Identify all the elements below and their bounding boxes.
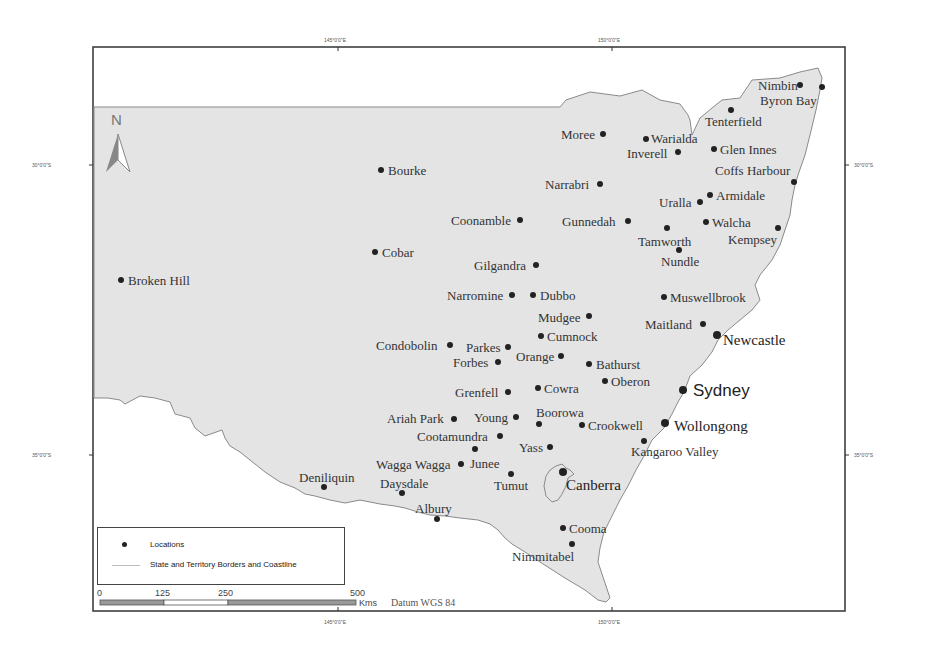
location-label: Coffs Harbour [715, 164, 790, 177]
location-marker-icon [378, 167, 384, 173]
location-label: Oberon [611, 375, 650, 388]
location-label: Moree [561, 128, 595, 141]
location-marker-icon [547, 444, 553, 450]
location-label: Tumut [494, 479, 528, 492]
location-marker-icon [508, 471, 514, 477]
scale-tick-250: 250 [218, 588, 233, 598]
location-marker-icon [535, 385, 541, 391]
location-marker-icon [661, 419, 669, 427]
location-label: Boorowa [536, 406, 584, 419]
location-marker-icon [505, 344, 511, 350]
location-marker-icon [586, 361, 592, 367]
location-label: Cobar [382, 246, 414, 259]
location-dot-icon [122, 542, 127, 547]
legend-label: Locations [150, 540, 184, 549]
location-label: Wagga Wagga [376, 458, 451, 471]
datum-label: Datum WGS 84 [391, 597, 455, 608]
graticule-label-top-150: 150°0'0"E [598, 37, 620, 43]
graticule-label-bottom-145: 145°0'0"E [324, 619, 346, 625]
location-label: Narrabri [545, 178, 589, 191]
scale-tick-125: 125 [155, 588, 170, 598]
graticule-label-right-35: 35°0'0"S [854, 452, 873, 458]
location-marker-icon [697, 199, 703, 205]
location-label: Deniliquin [299, 471, 355, 484]
location-marker-icon [118, 277, 124, 283]
location-label: Ariah Park [387, 412, 444, 425]
scale-tick-500: 500 [350, 588, 365, 598]
location-label: Canberra [566, 478, 621, 493]
location-marker-icon [602, 378, 608, 384]
location-label: Young [474, 411, 508, 424]
location-marker-icon [472, 446, 478, 452]
scale-bar [100, 600, 356, 605]
location-label: Sydney [693, 382, 750, 399]
location-marker-icon [569, 541, 575, 547]
location-label: Nimbin [758, 79, 798, 92]
location-marker-icon [513, 414, 519, 420]
location-marker-icon [538, 333, 544, 339]
location-label: Walcha [712, 216, 751, 229]
location-marker-icon [713, 331, 721, 339]
location-label: Junee [470, 457, 500, 470]
location-label: Condobolin [376, 339, 437, 352]
location-marker-icon [679, 386, 687, 394]
location-marker-icon [597, 181, 603, 187]
location-label: Dubbo [540, 289, 575, 302]
location-label: Tenterfield [705, 115, 762, 128]
location-marker-icon [458, 461, 464, 467]
location-label: Glen Innes [720, 143, 777, 156]
location-marker-icon [495, 359, 501, 365]
location-marker-icon [711, 146, 717, 152]
graticule-label-left-35: 35°0'0"S [32, 452, 51, 458]
location-label: Gunnedah [562, 215, 615, 228]
location-label: Warialda [651, 132, 698, 145]
location-label: Grenfell [455, 386, 498, 399]
location-marker-icon [586, 313, 592, 319]
legend: Locations State and Territory Borders an… [97, 527, 345, 585]
location-label: Orange [516, 350, 554, 363]
location-label: Forbes [453, 356, 488, 369]
location-label: Bathurst [596, 358, 640, 371]
location-label: Maitland [645, 318, 692, 331]
location-label: Parkes [466, 341, 501, 354]
location-label: Cowra [544, 382, 579, 395]
scale-unit: Kms [359, 598, 377, 608]
location-marker-icon [372, 249, 378, 255]
location-marker-icon [600, 131, 606, 137]
location-label: Albury [415, 502, 452, 515]
location-label: Crookwell [588, 419, 643, 432]
location-marker-icon [675, 149, 681, 155]
location-marker-icon [819, 84, 825, 90]
location-marker-icon [703, 219, 709, 225]
location-marker-icon [517, 217, 523, 223]
location-label: Gilgandra [474, 259, 526, 272]
north-label: N [111, 112, 122, 127]
location-marker-icon [533, 262, 539, 268]
location-label: Muswellbrook [670, 291, 746, 304]
location-marker-icon [579, 422, 585, 428]
location-marker-icon [643, 136, 649, 142]
location-label: Coonamble [451, 214, 511, 227]
graticule-label-bottom-150: 150°0'0"E [598, 619, 620, 625]
location-label: Cootamundra [417, 430, 488, 443]
location-label: Tamworth [638, 235, 691, 248]
location-marker-icon [664, 225, 670, 231]
graticule-label-top-145: 145°0'0"E [324, 37, 346, 43]
location-label: Newcastle [723, 333, 785, 348]
location-label: Narromine [447, 289, 503, 302]
location-marker-icon [707, 192, 713, 198]
location-label: Cooma [569, 522, 607, 535]
location-marker-icon [451, 416, 457, 422]
location-marker-icon [625, 218, 631, 224]
location-label: Inverell [627, 147, 667, 160]
location-label: Bourke [388, 164, 426, 177]
location-marker-icon [530, 292, 536, 298]
location-marker-icon [775, 225, 781, 231]
location-label: Daysdale [380, 477, 428, 490]
location-marker-icon [560, 525, 566, 531]
location-marker-icon [505, 389, 511, 395]
location-label: Kempsey [728, 233, 777, 246]
location-label: Nundle [661, 255, 699, 268]
location-label: Armidale [716, 189, 765, 202]
border-line-icon [112, 565, 140, 566]
